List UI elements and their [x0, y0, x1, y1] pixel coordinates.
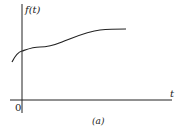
x-axis-label: t [170, 89, 174, 99]
y-axis-label: f(t) [25, 5, 41, 15]
figure-caption: (a) [92, 117, 104, 126]
origin-label: 0 [15, 103, 21, 113]
function-curve [12, 29, 126, 62]
